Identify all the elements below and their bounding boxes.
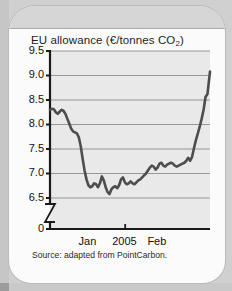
- page-corner-shadow: [0, 283, 9, 291]
- y-axis-tick-label: 8.5: [14, 93, 44, 105]
- page-edge-bottom: [0, 283, 232, 291]
- y-axis-tick-label: 8.0: [14, 117, 44, 129]
- x-axis-tick-label: Feb: [147, 235, 166, 247]
- y-axis-tick-label: 0: [14, 222, 44, 234]
- y-axis-tick-label: 9.5: [14, 44, 44, 56]
- screenshot-root: EU allowance (€/tonnes CO2) 9.59.08.58.0…: [0, 0, 232, 291]
- y-axis-tick-label: 7.0: [14, 166, 44, 178]
- chart-plot-area: 9.59.08.58.07.57.06.50Jan2005Feb: [9, 6, 225, 283]
- page-edge-left: [0, 0, 9, 291]
- x-axis-tick-label: 2005: [112, 235, 136, 247]
- figure-card: EU allowance (€/tonnes CO2) 9.59.08.58.0…: [9, 6, 225, 283]
- y-axis-tick-label: 9.0: [14, 68, 44, 80]
- source-note: Source: adapted from PointCarbon.: [32, 250, 167, 260]
- x-axis-tick-label: Jan: [79, 235, 97, 247]
- y-axis-tick-label: 7.5: [14, 142, 44, 154]
- y-axis-tick-label: 6.5: [14, 191, 44, 203]
